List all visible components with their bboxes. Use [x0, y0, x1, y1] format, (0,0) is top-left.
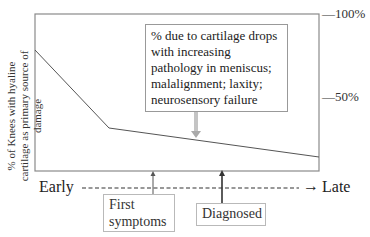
note-line: malalignment; laxity;: [151, 76, 283, 92]
late-label: Late: [322, 178, 350, 196]
tick-50: —50%: [322, 89, 359, 105]
diagnosed-box: Diagnosed: [196, 203, 266, 226]
note-line: neurosensory failure: [151, 92, 283, 108]
early-label: Early: [39, 178, 74, 196]
tick-100: —100%: [322, 6, 365, 22]
y-axis-label: % of Knees with hyaline cartilage as pri…: [5, 44, 35, 189]
first-symptoms-line2: symptoms: [109, 213, 169, 230]
first-symptoms-line1: First: [109, 196, 169, 213]
note-arrow-head-icon: [191, 131, 201, 138]
first-symptoms-arrow-icon: [151, 171, 156, 176]
note-line: % due to cartilage drops: [151, 28, 283, 44]
note-line: pathology in meniscus;: [151, 60, 283, 76]
note-line: with increasing: [151, 44, 283, 60]
right-arrow-icon: →: [303, 177, 319, 195]
first-symptoms-box: First symptoms: [103, 194, 175, 232]
cartilage-note-box: % due to cartilage drops with increasing…: [145, 24, 288, 112]
